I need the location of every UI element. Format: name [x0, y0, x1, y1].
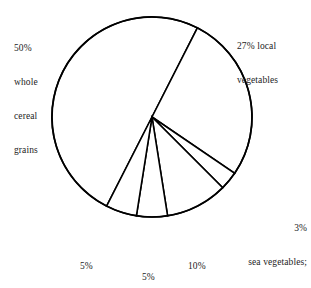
slice-label-line: 5% [80, 261, 116, 272]
slice-label-seeds-nuts-fish: 5% seeds, nuts, fish [80, 238, 116, 288]
pie-slices [52, 17, 252, 217]
slice-label-line: sea vegetables; [247, 257, 307, 268]
slice-label-line: vegetables [237, 75, 278, 86]
slice-label-line: 50% [14, 43, 38, 54]
slice-label-local-vegetables: 27% local vegetables [237, 18, 278, 109]
slice-label-line: 27% local [237, 41, 278, 52]
slice-label-line: 10% [188, 261, 213, 272]
slice-label-line: cereal [14, 111, 38, 122]
slice-label-line: whole [14, 77, 38, 88]
slice-label-soup: 5% soup [142, 249, 160, 288]
slice-label-beans-pulses: 10% beans, pulses [188, 238, 213, 288]
slice-label-cereal-grains: 50% whole cereal grains [14, 20, 38, 180]
slice-label-line: 3% [247, 223, 307, 234]
pie-chart-figure: 50% whole cereal grains 27% local vegeta… [0, 0, 311, 288]
slice-label-line: grains [14, 145, 38, 156]
slice-label-line: 5% [142, 272, 160, 283]
slice-label-sea-vegetables: 3% sea vegetables; for example, dried la… [247, 200, 307, 288]
